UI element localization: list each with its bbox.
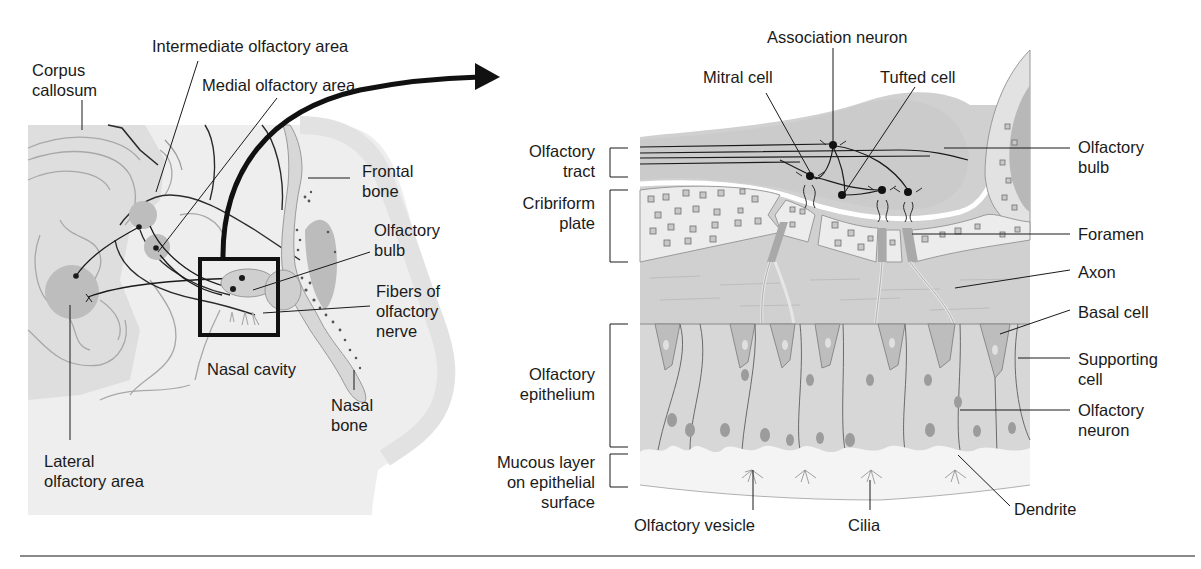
label-dendrite: Dendrite xyxy=(1014,499,1076,519)
label-corpus-callosum: Corpus callosum xyxy=(32,60,97,100)
label-olfactory-bulb-right: Olfactory bulb xyxy=(1078,137,1144,177)
label-mucous-layer: Mucous layer on epithelial surface xyxy=(460,452,595,512)
label-medial-olfactory-area: Medial olfactory area xyxy=(202,75,355,95)
label-cribriform-plate: Cribriform plate xyxy=(490,193,595,233)
tufted-cell-body xyxy=(878,186,886,194)
label-axon: Axon xyxy=(1078,262,1116,282)
label-cilia: Cilia xyxy=(848,515,880,535)
label-supporting-cell: Supporting cell xyxy=(1078,349,1158,389)
label-olfactory-neuron: Olfactory neuron xyxy=(1078,400,1144,440)
label-basal-cell: Basal cell xyxy=(1078,302,1149,322)
label-frontal-bone: Frontal bone xyxy=(362,161,413,201)
intermediate-olfactory-area-region xyxy=(129,201,157,229)
label-tufted-cell: Tufted cell xyxy=(880,67,956,87)
label-olfactory-epithelium: Olfactory epithelium xyxy=(480,364,595,404)
label-fibers-of-olfactory-nerve: Fibers of olfactory nerve xyxy=(376,281,440,341)
label-lateral-olfactory-area: Lateral olfactory area xyxy=(44,451,144,491)
label-foramen: Foramen xyxy=(1078,224,1144,244)
label-olfactory-tract: Olfactory tract xyxy=(500,141,595,181)
association-neuron-body xyxy=(829,141,837,149)
label-association-neuron: Association neuron xyxy=(767,27,907,47)
label-olfactory-vesicle: Olfactory vesicle xyxy=(634,515,755,535)
mitral-cell-body xyxy=(806,172,814,180)
label-intermediate-olfactory-area: Intermediate olfactory area xyxy=(152,36,348,56)
label-nasal-cavity: Nasal cavity xyxy=(207,359,296,379)
olfactory-anatomy-diagram xyxy=(0,0,1201,569)
magnified-olfactory-epithelium xyxy=(610,48,1070,510)
arrowhead-icon xyxy=(475,63,500,90)
label-olfactory-bulb-left: Olfactory bulb xyxy=(374,220,440,260)
label-nasal-bone: Nasal bone xyxy=(331,395,373,435)
lateral-olfactory-area-region xyxy=(45,265,99,319)
label-mitral-cell: Mitral cell xyxy=(703,67,773,87)
